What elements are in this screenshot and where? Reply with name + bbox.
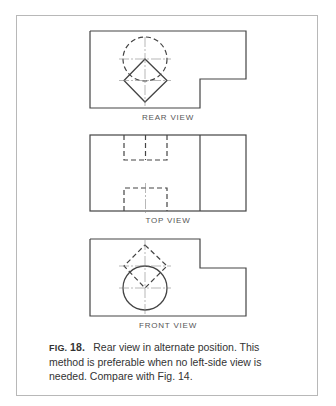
front-view-outline <box>90 239 246 316</box>
front-view-centerlines <box>119 240 171 314</box>
rear-view-outline <box>90 31 246 108</box>
top-view-outline <box>90 135 246 211</box>
top-view <box>90 135 246 214</box>
rear-view-label: REAR VIEW <box>90 113 246 122</box>
figure-caption: FIG. 18.Rear view in alternate position.… <box>49 340 289 383</box>
figure-number: FIG. 18. <box>49 343 85 353</box>
front-view-label: FRONT VIEW <box>90 321 246 330</box>
front-view <box>90 239 246 316</box>
top-view-label: TOP VIEW <box>90 216 246 225</box>
rear-view <box>90 31 246 108</box>
